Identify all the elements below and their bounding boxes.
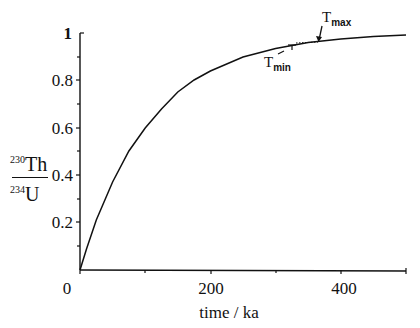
x-tick-label-200: 200 bbox=[198, 279, 224, 298]
fraction-bar bbox=[12, 177, 48, 178]
tmax-label: Tmax bbox=[322, 9, 352, 28]
y-axis-denominator: 234U bbox=[10, 180, 60, 204]
y-tick-label-0-6: 0.6 bbox=[52, 119, 73, 138]
x-tick-label-0: 0 bbox=[63, 279, 72, 298]
y-axis-title: 230Th 234U bbox=[10, 150, 60, 204]
y-tick-label-0-2: 0.2 bbox=[52, 213, 73, 232]
y-axis-numerator: 230Th bbox=[10, 150, 60, 174]
x-axis-title: time / ka bbox=[199, 303, 259, 322]
ingrowth-curve bbox=[80, 35, 406, 270]
x-axis bbox=[80, 270, 406, 271]
x-tick-label-400: 400 bbox=[331, 279, 357, 298]
chart-canvas: 1 0.8 0.6 0.4 0.2 0 200 400 time / ka Tm… bbox=[0, 0, 420, 328]
tmax-arrow-icon bbox=[316, 26, 322, 42]
y-tick-label-0-8: 0.8 bbox=[52, 71, 73, 90]
y-tick-label-1: 1 bbox=[64, 24, 73, 43]
tmin-label: Tmin bbox=[264, 54, 291, 73]
